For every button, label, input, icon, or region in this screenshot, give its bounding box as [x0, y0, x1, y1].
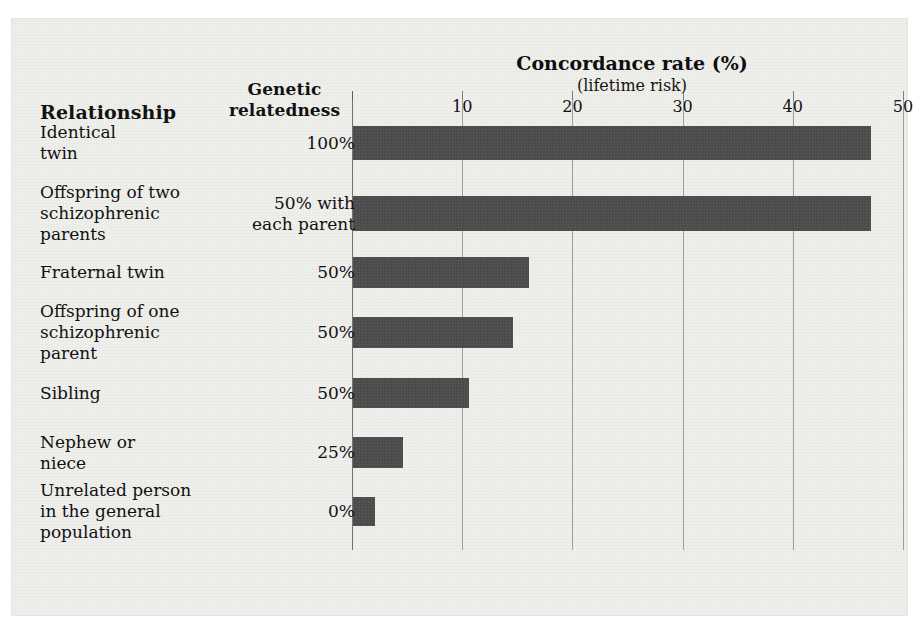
row-relatedness-line: each parent — [212, 214, 355, 235]
row-relatedness-line: 50% — [212, 262, 355, 283]
column-header-genetic-relatedness-text: Genetic relatedness — [229, 79, 340, 120]
gridline-50 — [903, 100, 904, 550]
tick-mark-40 — [793, 91, 794, 100]
plot-area — [352, 100, 905, 550]
row-relatedness-2: 50% — [212, 262, 355, 283]
tick-mark-50 — [903, 91, 904, 100]
row-label-line: Offspring of two — [40, 182, 220, 203]
row-relatedness-line: 0% — [212, 501, 355, 522]
row-label-line: Unrelated person — [40, 480, 220, 501]
chart-page: Relationship Genetic relatedness Concord… — [0, 0, 921, 637]
row-relatedness-5: 25% — [212, 442, 355, 463]
chart-panel: Relationship Genetic relatedness Concord… — [12, 19, 907, 615]
row-label-line: schizophrenic — [40, 203, 220, 224]
tick-mark-20 — [572, 91, 573, 100]
row-label-6: Unrelated personin the generalpopulation — [40, 480, 220, 543]
row-label-4: Sibling — [40, 383, 220, 404]
row-label-5: Nephew orniece — [40, 432, 220, 474]
row-label-line: Identical — [40, 122, 220, 143]
column-header-relationship: Relationship — [40, 101, 176, 123]
row-label-line: population — [40, 522, 220, 543]
row-label-line: twin — [40, 143, 220, 164]
row-relatedness-3: 50% — [212, 322, 355, 343]
row-label-line: niece — [40, 453, 220, 474]
row-relatedness-line: 100% — [212, 133, 355, 154]
row-label-line: in the general — [40, 501, 220, 522]
row-label-line: parent — [40, 343, 220, 364]
bar-5 — [353, 437, 403, 468]
row-label-line: Sibling — [40, 383, 220, 404]
row-relatedness-1: 50% witheach parent — [212, 193, 355, 235]
row-relatedness-line: 25% — [212, 442, 355, 463]
row-relatedness-line: 50% — [212, 383, 355, 404]
bar-0 — [353, 126, 871, 160]
row-label-2: Fraternal twin — [40, 262, 220, 283]
row-label-line: Nephew or — [40, 432, 220, 453]
gridline-30 — [683, 100, 684, 550]
bar-1 — [353, 196, 871, 231]
tick-mark-0 — [352, 91, 353, 100]
row-label-0: Identicaltwin — [40, 122, 220, 164]
bar-6 — [353, 497, 375, 526]
column-header-genetic-relatedness: Genetic relatedness — [212, 79, 357, 121]
row-label-line: Offspring of one — [40, 301, 220, 322]
gridline-40 — [793, 100, 794, 550]
row-label-line: parents — [40, 224, 220, 245]
bar-4 — [353, 378, 469, 408]
row-relatedness-0: 100% — [212, 133, 355, 154]
gridline-20 — [572, 100, 573, 550]
bar-2 — [353, 257, 529, 288]
row-label-3: Offspring of oneschizophrenicparent — [40, 301, 220, 364]
tick-mark-30 — [683, 91, 684, 100]
tick-mark-10 — [462, 91, 463, 100]
row-relatedness-line: 50% — [212, 322, 355, 343]
row-relatedness-6: 0% — [212, 501, 355, 522]
row-label-line: Fraternal twin — [40, 262, 220, 283]
row-relatedness-line: 50% with — [212, 193, 355, 214]
row-label-line: schizophrenic — [40, 322, 220, 343]
row-relatedness-4: 50% — [212, 383, 355, 404]
row-label-1: Offspring of twoschizophrenicparents — [40, 182, 220, 245]
bar-3 — [353, 317, 513, 348]
